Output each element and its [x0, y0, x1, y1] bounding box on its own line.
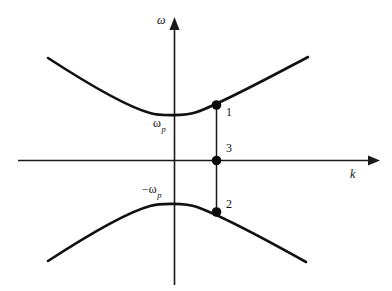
dispersion-relation-figure: ω k ωp −ωp 1 3 2 [0, 0, 392, 291]
arrow-right-icon [368, 156, 380, 166]
tick-label-omega-p-base: ω [153, 116, 161, 130]
data-point-1-marker[interactable] [212, 100, 222, 110]
arrow-up-icon [170, 17, 180, 30]
data-point-1-label: 1 [226, 106, 232, 118]
data-point-3-marker[interactable] [212, 156, 222, 166]
tick-label-negative-omega-p: −ωp [142, 183, 161, 198]
omega-axis-label: ω [157, 14, 165, 26]
data-point-2-label: 2 [226, 198, 232, 210]
data-point-3-label: 3 [226, 142, 232, 154]
tick-label-negative-omega-p-subscript: p [157, 190, 161, 200]
tick-label-omega-p: ωp [153, 117, 165, 132]
plot-canvas [0, 0, 392, 291]
lower-branch-curve [48, 204, 306, 262]
upper-branch-curve [48, 57, 308, 115]
tick-label-omega-p-subscript: p [161, 124, 165, 134]
data-point-2-marker[interactable] [212, 207, 222, 217]
k-axis-label: k [350, 168, 355, 180]
tick-label-negative-omega-p-base: −ω [142, 182, 157, 196]
